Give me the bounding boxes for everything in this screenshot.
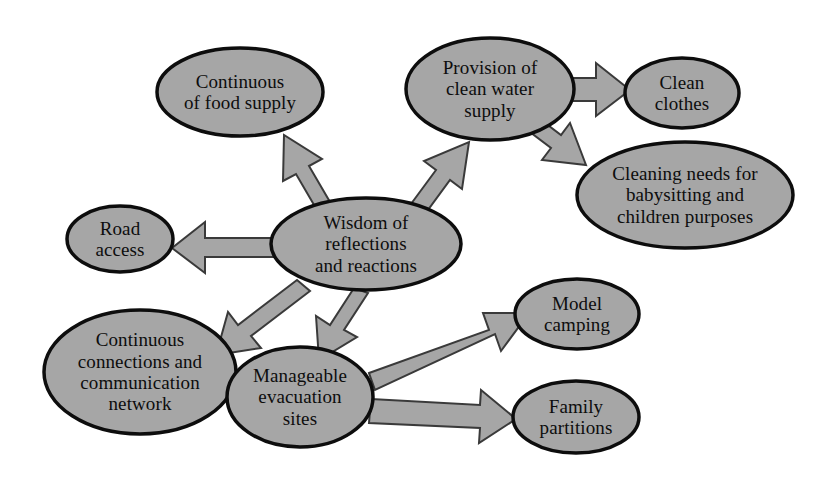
node-model-camping[interactable]: [515, 279, 639, 349]
nodes-layer: [44, 38, 793, 453]
node-family-partitions[interactable]: [513, 381, 639, 453]
arrow-evacuation-to-model-camping: [369, 313, 529, 390]
node-manageable-evacuation-sites[interactable]: [227, 347, 373, 447]
arrow-evacuation-to-family-partitions: [369, 390, 516, 443]
node-provision-of-clean-water-supply[interactable]: [406, 38, 574, 140]
node-cleaning-needs[interactable]: [577, 142, 793, 248]
arrow-wisdom-to-network: [216, 280, 310, 355]
node-clean-clothes[interactable]: [625, 58, 739, 128]
node-continuous-connections-and-communication-network[interactable]: [44, 310, 236, 434]
diagram-canvas: [0, 0, 831, 489]
node-continuous-of-food-supply[interactable]: [157, 48, 323, 136]
node-road-access[interactable]: [67, 206, 173, 272]
concept-map-diagram: Continuous of food supply Provision of c…: [0, 0, 831, 489]
arrow-wisdom-to-food: [283, 135, 330, 210]
arrow-wisdom-to-road: [172, 222, 276, 273]
node-wisdom-of-reflections-and-reactions[interactable]: [271, 198, 461, 290]
